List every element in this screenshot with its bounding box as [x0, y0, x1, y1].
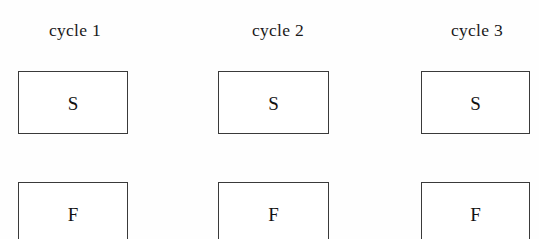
column-label-cycle-3: cycle 3: [451, 20, 503, 41]
diagram-canvas: cycle 1 cycle 2 cycle 3 S F S F S F: [0, 0, 539, 239]
cell-cycle-2-s: S: [218, 71, 329, 134]
cell-letter-f: F: [19, 205, 127, 224]
cell-letter-s: S: [219, 94, 328, 113]
cell-cycle-1-s: S: [18, 71, 128, 134]
cell-letter-s: S: [19, 94, 127, 113]
cell-letter-f: F: [422, 205, 529, 224]
cell-letter-f: F: [219, 205, 328, 224]
cell-cycle-1-f: F: [18, 182, 128, 239]
column-label-cycle-2: cycle 2: [252, 20, 304, 41]
cell-letter-s: S: [422, 94, 529, 113]
cell-cycle-2-f: F: [218, 182, 329, 239]
cell-cycle-3-f: F: [421, 182, 530, 239]
cell-cycle-3-s: S: [421, 71, 530, 134]
column-label-cycle-1: cycle 1: [49, 20, 101, 41]
